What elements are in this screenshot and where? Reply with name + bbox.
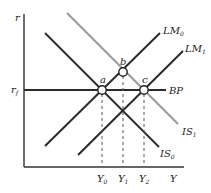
point-a-marker [98,86,106,94]
is1-label: IS1 [181,126,197,138]
rf-label: rf [11,84,20,97]
point-a-label: a [100,74,106,85]
is0-label: IS0 [159,148,175,160]
y1-tick-label: Y1 [118,173,128,185]
bp-label: BP [168,85,183,96]
y-axis-label: r [15,12,21,23]
point-c-label: c [142,74,148,85]
is-lm-bp-diagram: r rf Y a b c LM0 LM1 BP IS1 IS0 Y0 Y1 Y2 [0,0,211,193]
point-b-marker [119,68,127,76]
point-b-label: b [120,56,126,67]
x-axis-label: Y [170,173,178,184]
lm1-label: LM1 [184,43,206,55]
y0-tick-label: Y0 [97,173,108,185]
lm1-curve [78,51,183,155]
point-c-marker [140,86,148,94]
lm0-label: LM0 [162,25,184,37]
y2-tick-label: Y2 [139,173,150,185]
